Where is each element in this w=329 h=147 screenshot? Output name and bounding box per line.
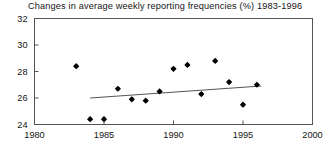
data-point-core bbox=[185, 63, 189, 67]
x-tick-label: 1980 bbox=[24, 130, 44, 140]
data-point-series bbox=[73, 58, 260, 123]
x-tick-label: 1995 bbox=[233, 130, 253, 140]
y-tick-label: 28 bbox=[17, 67, 27, 77]
data-point-core bbox=[213, 59, 217, 63]
y-axis-ticks: 2426283032 bbox=[17, 14, 38, 130]
data-point-core bbox=[74, 64, 78, 68]
y-tick-label: 30 bbox=[17, 40, 27, 50]
data-point-core bbox=[227, 80, 231, 84]
data-point-core bbox=[255, 83, 259, 87]
data-point-core bbox=[199, 92, 203, 96]
x-tick-label: 1985 bbox=[94, 130, 114, 140]
data-point-core bbox=[158, 89, 162, 93]
y-tick-label: 32 bbox=[17, 14, 27, 24]
y-tick-label: 26 bbox=[17, 93, 27, 103]
x-axis-ticks: 19801985199019952000 bbox=[24, 121, 322, 140]
x-tick-label: 2000 bbox=[302, 130, 322, 140]
data-point-core bbox=[102, 117, 106, 121]
data-point-core bbox=[172, 67, 176, 71]
data-point-core bbox=[88, 117, 92, 121]
chart-figure: Changes in average weekly reporting freq… bbox=[0, 0, 329, 147]
data-point-core bbox=[116, 87, 120, 91]
chart-plot-area: 2426283032 19801985199019952000 bbox=[0, 0, 329, 147]
data-point-core bbox=[144, 99, 148, 103]
data-point-core bbox=[130, 97, 134, 101]
x-tick-label: 1990 bbox=[163, 130, 183, 140]
y-tick-label: 24 bbox=[17, 120, 27, 130]
data-point-core bbox=[241, 103, 245, 107]
